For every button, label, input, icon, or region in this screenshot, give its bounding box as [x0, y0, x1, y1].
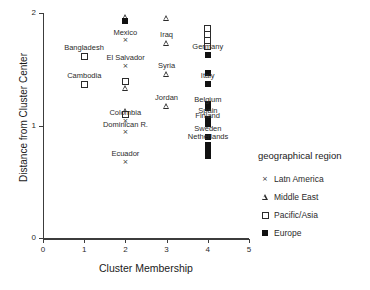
x-tick-mark: [208, 239, 209, 243]
point-label: Germany: [192, 43, 223, 51]
legend-item[interactable]: ×Latn America: [258, 170, 370, 188]
y-tick-label: 0: [20, 234, 36, 242]
point-label: El Salvador: [106, 54, 144, 62]
point-label: Syria: [158, 62, 175, 70]
marker-cross-icon: ×: [122, 37, 129, 44]
point-label: Belgium: [194, 96, 221, 104]
y-axis-title: Distance from Cluster Center: [18, 23, 29, 213]
x-tick-label: 2: [115, 246, 135, 254]
y-tick-mark: [39, 126, 44, 127]
legend-item-label: Europe: [274, 228, 301, 238]
marker-triangle-icon: [163, 103, 169, 109]
x-tick-label: 4: [198, 246, 218, 254]
legend-item-label: Latn America: [274, 174, 324, 184]
marker-filled-square-icon: [205, 81, 211, 87]
legend-item-label: Pacific/Asia: [274, 210, 318, 220]
marker-filled-square-icon: [122, 18, 128, 24]
legend-item[interactable]: Europe: [258, 224, 370, 242]
x-tick-mark: [167, 239, 168, 243]
marker-triangle-icon: [163, 40, 169, 46]
legend-item[interactable]: Pacific/Asia: [258, 206, 370, 224]
marker-triangle-icon: [163, 15, 169, 21]
x-tick-label: 0: [33, 246, 53, 254]
marker-open-square-icon: [81, 81, 88, 88]
point-label: Ecuador: [111, 150, 139, 158]
legend-marker: ×: [258, 174, 274, 184]
point-label: Cambodia: [67, 72, 101, 80]
point-label: Finland: [195, 112, 220, 120]
x-axis-title: Cluster Membership: [43, 262, 249, 274]
point-label: Dominican R.: [103, 121, 148, 129]
marker-filled-square-icon: [205, 153, 211, 159]
point-label: Iraq: [160, 31, 173, 39]
point-label: Colombia: [109, 109, 141, 117]
x-tick-mark: [249, 239, 250, 243]
marker-open-square-icon: [262, 212, 269, 219]
x-tick-label: 5: [239, 246, 259, 254]
x-tick-label: 3: [157, 246, 177, 254]
point-label: Bangladesh: [64, 44, 104, 52]
marker-filled-square-icon: [205, 52, 211, 58]
legend-marker: [258, 192, 274, 202]
legend-marker: [258, 210, 274, 220]
marker-triangle-icon: [122, 85, 128, 91]
x-tick-label: 1: [74, 246, 94, 254]
y-tick-mark: [39, 13, 44, 14]
marker-open-square-icon: [122, 78, 129, 85]
marker-filled-square-icon: [205, 142, 211, 148]
legend-item[interactable]: Middle East: [258, 188, 370, 206]
marker-filled-square-icon: [262, 230, 268, 236]
point-label: Netherlands: [188, 133, 228, 141]
legend-items: ×Latn AmericaMiddle EastPacific/AsiaEuro…: [258, 170, 370, 242]
legend-title: geographical region: [258, 150, 370, 161]
scatter-plot: 012 012345 Distance from Cluster Center …: [0, 0, 370, 290]
marker-triangle-icon: [262, 194, 268, 200]
legend-marker: [258, 228, 274, 238]
legend-item-label: Middle East: [274, 192, 318, 202]
marker-triangle-icon: [163, 71, 169, 77]
legend: geographical region ×Latn AmericaMiddle …: [258, 150, 370, 242]
x-tick-mark: [43, 239, 44, 243]
y-tick-label: 2: [20, 9, 36, 17]
x-axis-line: [43, 238, 249, 240]
marker-open-square-icon: [81, 53, 88, 60]
point-label: Jordan: [155, 94, 178, 102]
marker-cross-icon: ×: [122, 159, 129, 166]
x-tick-mark: [125, 239, 126, 243]
marker-cross-icon: ×: [262, 176, 269, 183]
marker-cross-icon: ×: [122, 129, 129, 136]
point-label: Italy: [201, 72, 215, 80]
x-tick-mark: [84, 239, 85, 243]
point-label: Mexico: [113, 29, 137, 37]
marker-cross-icon: ×: [122, 63, 129, 70]
